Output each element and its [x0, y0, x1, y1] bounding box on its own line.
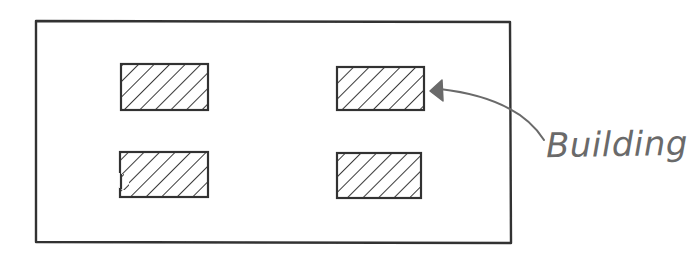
building-label: Building: [546, 123, 689, 165]
building-1: [121, 64, 208, 110]
annotation-arrow: [430, 80, 544, 140]
arrowhead-icon: [430, 80, 443, 101]
building-3: [120, 152, 208, 197]
site-boundary: [36, 21, 511, 243]
building-4: [337, 153, 421, 198]
building-2: [337, 67, 424, 110]
